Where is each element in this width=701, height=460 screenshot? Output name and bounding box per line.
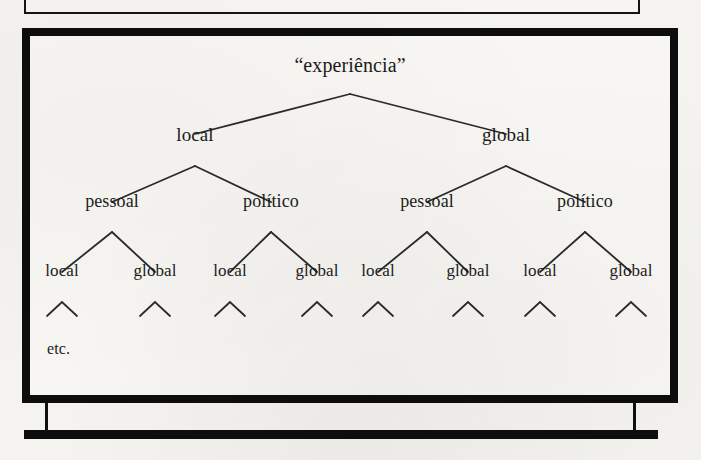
tree-leaf-8: global xyxy=(609,261,652,281)
tree-node-root: “experiência” xyxy=(294,54,405,77)
stand-base-bar xyxy=(24,430,658,439)
tree-leaf-3: local xyxy=(213,261,247,281)
tree-leaf-4: global xyxy=(295,261,338,281)
tree-continuation-label: etc. xyxy=(47,340,70,358)
tree-node-l3-pessoal-2: pessoal xyxy=(400,191,454,212)
tree-node-l3-politico-2: político xyxy=(557,191,613,212)
tree-leaf-2: global xyxy=(133,261,176,281)
tree-leaf-5: local xyxy=(361,261,395,281)
tree-node-l2-local: local xyxy=(176,124,213,146)
screen-frame xyxy=(22,28,678,403)
tree-node-l3-pessoal-1: pessoal xyxy=(85,191,139,212)
figure-page: “experiência” local global pessoal polít… xyxy=(0,0,701,460)
tree-leaf-7: local xyxy=(523,261,557,281)
tree-node-l3-politico-1: político xyxy=(243,191,299,212)
tree-node-l2-global: global xyxy=(482,124,530,146)
tree-leaf-6: global xyxy=(446,261,489,281)
tree-leaf-1: local xyxy=(45,261,79,281)
upper-box-fragment xyxy=(24,0,640,14)
